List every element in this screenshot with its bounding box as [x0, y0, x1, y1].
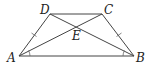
- angle-arc-B: [123, 51, 125, 57]
- diagonal-BD: [50, 14, 134, 56]
- trapezoid-diagram: D C E A B: [0, 0, 152, 66]
- label-D: D: [39, 3, 50, 17]
- angle-arc-A: [29, 51, 31, 57]
- label-A: A: [6, 51, 16, 65]
- label-E: E: [71, 29, 81, 43]
- diagonal-AC: [19, 14, 102, 56]
- label-C: C: [104, 3, 113, 17]
- label-B: B: [135, 51, 145, 65]
